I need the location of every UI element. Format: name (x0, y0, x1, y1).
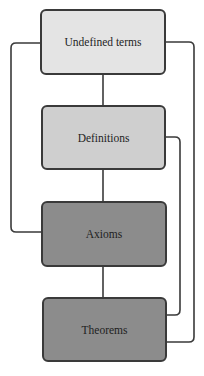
node-label: Definitions (78, 132, 130, 144)
node-axioms: Axioms (41, 201, 167, 267)
node-label: Theorems (82, 324, 128, 336)
node-label: Undefined terms (65, 36, 142, 48)
edge-definitions-to-theorems (165, 137, 180, 315)
edge-undefined-to-axioms (11, 43, 41, 232)
node-undefined-terms: Undefined terms (40, 9, 166, 75)
node-label: Axioms (86, 228, 122, 240)
node-definitions: Definitions (41, 105, 166, 170)
node-theorems: Theorems (42, 297, 167, 362)
